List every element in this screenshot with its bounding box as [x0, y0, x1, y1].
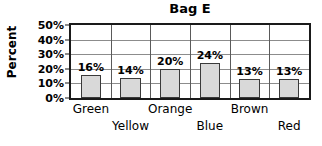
- y-tick-label: 50%: [22, 20, 64, 31]
- bar: [239, 79, 260, 98]
- y-tick-label: 40%: [22, 34, 64, 45]
- bar-value-label: 14%: [114, 65, 148, 76]
- y-tick-label: 10%: [22, 78, 64, 89]
- bar: [120, 78, 141, 98]
- x-category-label: Brown: [222, 103, 278, 116]
- bar-chart: Bag E Percent 0%10%20%30%40%50% GreenYel…: [0, 0, 322, 146]
- x-category-label: Red: [261, 120, 317, 133]
- bar-value-label: 24%: [193, 50, 227, 61]
- y-axis-title: Percent: [5, 22, 19, 82]
- bar: [160, 69, 181, 98]
- bar-value-label: 13%: [272, 66, 306, 77]
- bar: [279, 79, 300, 98]
- chart-title: Bag E: [70, 1, 310, 17]
- x-category-label: Blue: [182, 120, 238, 133]
- bar: [200, 63, 221, 98]
- y-tick-label: 0%: [22, 93, 64, 104]
- y-tick-label: 30%: [22, 49, 64, 60]
- category-divider: [269, 25, 270, 98]
- category-divider: [190, 25, 191, 98]
- bar: [81, 75, 102, 98]
- y-axis-tick-labels: 0%10%20%30%40%50%: [22, 20, 64, 100]
- x-category-label: Yellow: [103, 120, 159, 133]
- category-divider: [150, 25, 151, 98]
- bar-value-label: 16%: [74, 62, 108, 73]
- category-divider: [230, 25, 231, 98]
- y-tick-label: 20%: [22, 63, 64, 74]
- x-category-label: Green: [63, 103, 119, 116]
- bar-value-label: 20%: [153, 56, 187, 67]
- bar-value-label: 13%: [233, 66, 267, 77]
- category-divider: [111, 25, 112, 98]
- x-category-label: Orange: [142, 103, 198, 116]
